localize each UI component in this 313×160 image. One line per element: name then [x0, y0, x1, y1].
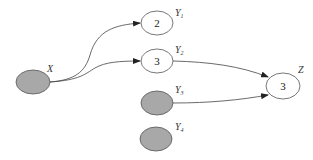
node-y3-label: Y3	[175, 84, 184, 96]
node-y3-ellipse	[141, 91, 173, 115]
node-x-label: X	[46, 63, 54, 74]
node-z: 3 Z	[266, 64, 304, 99]
node-y2: 3 Y2	[141, 44, 184, 73]
edge-y2-z	[173, 61, 268, 77]
node-y4: Y4	[140, 121, 184, 151]
node-z-label: Z	[298, 64, 304, 75]
node-y1-label: Y1	[175, 7, 184, 19]
edge-y3-z	[173, 95, 268, 103]
node-y1: 2 Y1	[141, 7, 184, 35]
diagram-canvas: X 2 Y1 3 Y2 Y3 Y4 3 Z	[0, 0, 313, 160]
node-y4-label: Y4	[175, 121, 184, 133]
edge-x-y1	[50, 23, 140, 82]
node-y2-label: Y2	[175, 44, 184, 56]
node-y4-ellipse	[140, 127, 172, 151]
node-y2-value: 3	[154, 55, 160, 67]
node-z-value: 3	[280, 80, 286, 92]
node-x-ellipse	[16, 70, 50, 94]
node-x: X	[16, 63, 54, 94]
edge-x-y2	[50, 61, 140, 82]
node-y1-value: 2	[154, 17, 160, 29]
node-y3: Y3	[141, 84, 184, 115]
